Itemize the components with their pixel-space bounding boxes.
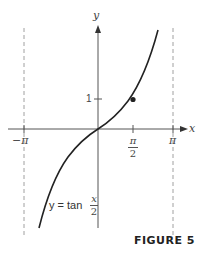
figure-caption: FIGURE 5 [134, 234, 195, 247]
pi-half-numerator: π [130, 135, 137, 146]
tick-label-pi: π [169, 134, 176, 147]
tick-label-pi-half: π 2 [128, 136, 138, 159]
equation-numerator: x [91, 193, 97, 204]
tick-label-neg-pi: −π [12, 134, 28, 147]
y-axis-label: y [93, 9, 99, 22]
equation-denominator: 2 [91, 206, 97, 217]
highlight-point [130, 97, 135, 102]
tick-label-one: 1 [86, 93, 92, 104]
graph-canvas [0, 0, 209, 255]
equation-fraction: x 2 [90, 194, 98, 217]
equation-lhs: y = tan [49, 199, 82, 211]
x-axis-arrow [180, 126, 188, 132]
pi-half-denominator: 2 [130, 148, 136, 159]
x-axis-label: x [189, 122, 195, 135]
y-axis-arrow [95, 25, 101, 33]
